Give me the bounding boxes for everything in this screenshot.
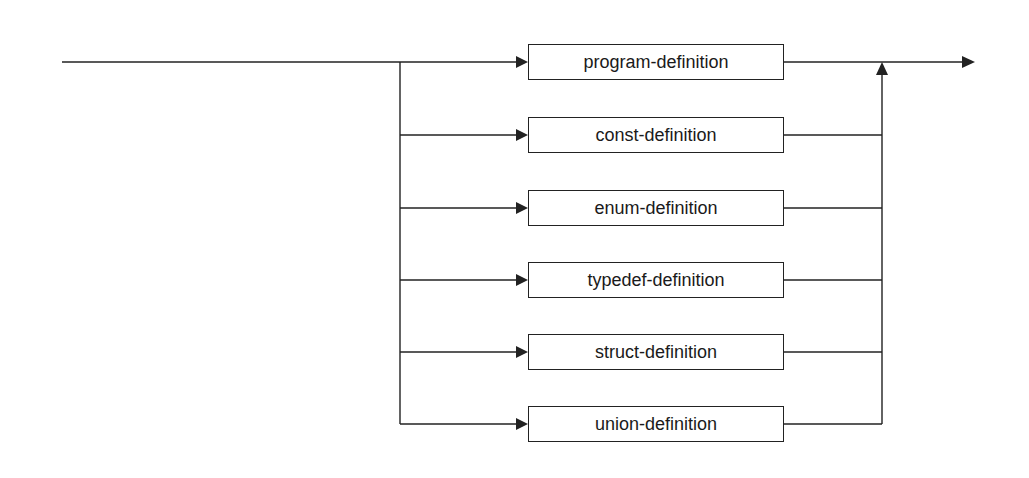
- arrow-right-icon: [516, 129, 528, 141]
- arrow-right-icon: [962, 56, 975, 68]
- arrowheads: [516, 56, 975, 430]
- arrow-right-icon: [516, 346, 528, 358]
- syntax-diagram-lines: [0, 0, 1029, 478]
- enum-definition-box: enum-definition: [528, 190, 784, 226]
- box-label: program-definition: [583, 52, 728, 73]
- arrow-right-icon: [516, 56, 528, 68]
- struct-definition-box: struct-definition: [528, 334, 784, 370]
- arrow-right-icon: [516, 274, 528, 286]
- arrow-right-icon: [516, 202, 528, 214]
- union-definition-box: union-definition: [528, 406, 784, 442]
- arrow-up-icon: [876, 62, 888, 75]
- box-label: typedef-definition: [587, 270, 724, 291]
- program-definition-box: program-definition: [528, 44, 784, 80]
- box-label: struct-definition: [595, 342, 717, 363]
- arrow-right-icon: [516, 418, 528, 430]
- const-definition-box: const-definition: [528, 117, 784, 153]
- box-label: const-definition: [595, 125, 716, 146]
- box-label: enum-definition: [594, 198, 717, 219]
- typedef-definition-box: typedef-definition: [528, 262, 784, 298]
- box-label: union-definition: [595, 414, 717, 435]
